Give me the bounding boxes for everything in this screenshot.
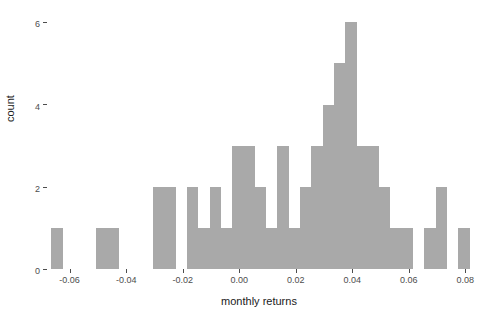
histogram-bar: [323, 105, 334, 269]
histogram-bar: [458, 228, 469, 269]
y-axis-tick-mark: [43, 104, 47, 105]
y-axis-tick: 4: [35, 99, 47, 111]
x-axis-tick-mark: [126, 269, 127, 273]
histogram-bar: [221, 228, 232, 269]
y-axis-tick: 0: [35, 263, 47, 275]
histogram-bar: [357, 146, 368, 269]
y-axis-tick-label: 6: [35, 19, 43, 29]
x-axis-tick-label: -0.02: [172, 275, 193, 285]
x-axis-tick-mark: [352, 269, 353, 273]
histogram-bar: [300, 187, 311, 269]
plot-area: [47, 10, 471, 269]
histogram-bar: [232, 146, 243, 269]
histogram-bar: [210, 187, 221, 269]
y-axis-tick-label: 4: [35, 102, 43, 112]
histogram-bar: [243, 146, 254, 269]
histogram-bar: [289, 228, 300, 269]
x-axis-tick-mark: [70, 269, 71, 273]
histogram-bar: [164, 187, 175, 269]
x-axis-tick-label: 0.02: [287, 275, 305, 285]
y-axis-tick: 6: [35, 16, 47, 28]
x-axis-tick-mark: [409, 269, 410, 273]
histogram-bar: [436, 187, 447, 269]
x-axis-tick-mark: [183, 269, 184, 273]
histogram-bar: [379, 187, 390, 269]
histogram-bar: [311, 146, 322, 269]
histogram-bar: [390, 228, 401, 269]
x-axis-tick-label: 0.00: [230, 275, 248, 285]
x-axis-tick-label: -0.04: [116, 275, 137, 285]
y-axis-tick: 2: [35, 181, 47, 193]
y-axis: 0246: [0, 0, 47, 330]
histogram-bar: [402, 228, 413, 269]
y-axis-title: count: [4, 95, 16, 122]
histogram-bar: [187, 187, 198, 269]
x-axis-tick-mark: [465, 269, 466, 273]
histogram-bar: [266, 228, 277, 269]
histogram-bar: [255, 187, 266, 269]
x-axis-tick-mark: [296, 269, 297, 273]
x-axis-tick-mark: [239, 269, 240, 273]
histogram-figure: 0246 count monthly returns -0.06-0.04-0.…: [0, 0, 480, 330]
y-axis-tick-label: 2: [35, 184, 43, 194]
histogram-bar: [345, 22, 356, 269]
x-axis: monthly returns -0.06-0.04-0.020.000.020…: [47, 269, 471, 330]
histogram-bar: [334, 63, 345, 269]
histogram-bar: [277, 146, 288, 269]
x-axis-tick-label: 0.06: [400, 275, 418, 285]
bars-layer: [47, 10, 471, 269]
histogram-bar: [96, 228, 107, 269]
histogram-bar: [368, 146, 379, 269]
histogram-bar: [198, 228, 209, 269]
x-axis-tick-label: 0.04: [344, 275, 362, 285]
y-axis-tick-mark: [43, 22, 47, 23]
x-axis-tick-label: -0.06: [59, 275, 80, 285]
histogram-bar: [153, 187, 164, 269]
histogram-bar: [108, 228, 119, 269]
x-axis-tick-label: 0.08: [457, 275, 475, 285]
histogram-bar: [51, 228, 62, 269]
y-axis-tick-label: 0: [35, 266, 43, 276]
x-axis-title: monthly returns: [47, 295, 471, 307]
y-axis-tick-mark: [43, 187, 47, 188]
histogram-bar: [424, 228, 435, 269]
